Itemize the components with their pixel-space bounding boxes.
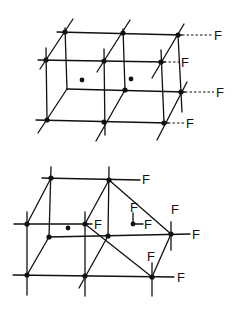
- atom-node: [82, 273, 87, 278]
- edge: [65, 28, 67, 89]
- figure-top: F F F F: [36, 19, 224, 141]
- fluorine-label: F: [130, 200, 138, 215]
- fluorine-label: F: [216, 85, 224, 100]
- fluorine-label: F: [147, 249, 155, 264]
- edge: [97, 20, 130, 72]
- fluorine-label: F: [171, 202, 179, 217]
- fluorine-label: F: [186, 116, 194, 131]
- edge: [123, 29, 125, 90]
- atom-node: [82, 221, 87, 226]
- atom-node: [168, 231, 173, 236]
- atom-node: [24, 272, 29, 277]
- atom-node: [24, 221, 29, 226]
- edge: [27, 237, 49, 275]
- fluorine-label: F: [177, 270, 185, 285]
- atom-node: [120, 30, 125, 35]
- edge: [27, 178, 51, 224]
- atom-node: [105, 233, 110, 238]
- atom-node: [175, 32, 180, 37]
- edge: [42, 178, 140, 180]
- lattice-diagram: F F F F: [0, 0, 234, 315]
- atom-node: [48, 175, 53, 180]
- atom-node: [161, 120, 166, 125]
- atom-node: [101, 58, 106, 63]
- atom-node: [131, 222, 136, 227]
- atom-node: [43, 57, 48, 62]
- atom-node: [158, 59, 163, 64]
- atom-node: [106, 177, 111, 182]
- edge: [178, 35, 182, 112]
- fluorine-label: F: [214, 28, 222, 43]
- atom-node: [62, 29, 67, 34]
- atom-node: [46, 234, 51, 239]
- edge: [79, 236, 108, 288]
- fluorine-label: F: [181, 55, 189, 70]
- edge: [108, 167, 109, 236]
- center-atom-dot: [80, 78, 85, 83]
- figure-bottom: F F F F F F F F: [13, 167, 200, 296]
- edge: [109, 180, 171, 234]
- fluorine-label: F: [144, 217, 152, 232]
- fluorine-label: F: [142, 172, 150, 187]
- fluorine-label: F: [94, 217, 102, 232]
- atom-node: [178, 89, 183, 94]
- atom-node: [44, 117, 49, 122]
- edge: [96, 90, 125, 141]
- atom-node: [122, 87, 127, 92]
- fluorine-label: F: [192, 227, 200, 242]
- atom-node: [149, 274, 154, 279]
- edge: [38, 89, 67, 133]
- atom-node: [101, 119, 106, 124]
- center-atom-dot: [129, 77, 134, 82]
- center-atom-dot: [66, 226, 71, 231]
- edge: [57, 32, 182, 35]
